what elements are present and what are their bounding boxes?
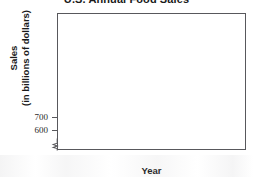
y-axis-tick: 600 [0,125,57,136]
y-axis-tick: 700 [0,112,57,123]
y-axis-tick-label: 600 [35,125,49,136]
x-axis-label: Year [57,165,246,176]
y-axis-tick-mark [52,117,57,118]
y-axis-label-line-2: (in billions of dollars) [20,10,32,106]
y-axis-label-line-1: Sales [8,46,20,71]
plot-area [57,13,246,150]
chart-figure: U.S. Annual Food Sales Sales (in billion… [0,0,253,180]
y-axis-tick-label: 700 [35,112,49,123]
y-axis-label: Sales (in billions of dollars) [2,0,38,123]
axis-break-icon [51,138,64,151]
y-axis-tick-mark [52,130,57,131]
